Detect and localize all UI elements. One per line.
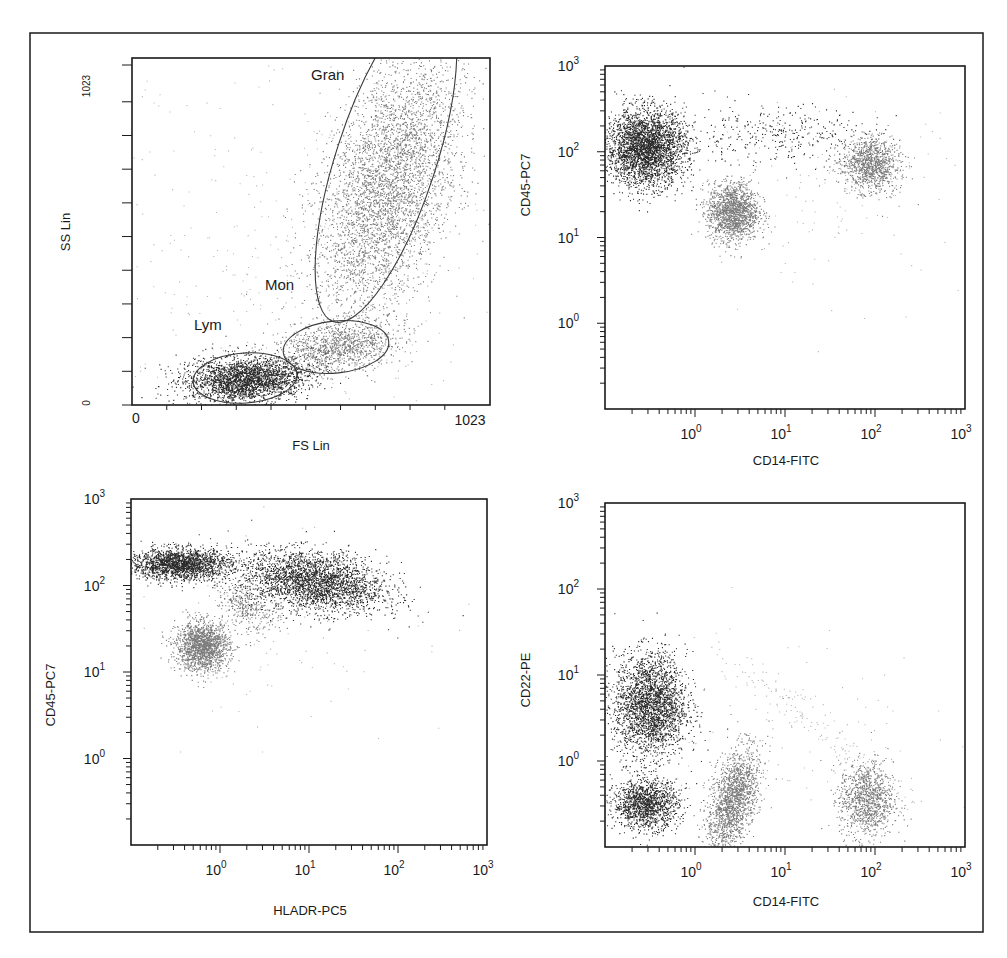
flow-cytometry-figure: 0102301023 FS Lin SS Lin LymMonGran 1001… — [0, 0, 1007, 958]
x-axis-label: HLADR-PC5 — [273, 903, 347, 918]
y-axis-label: SS Lin — [58, 213, 73, 251]
y-tick-label: 0 — [81, 400, 92, 406]
y-tick-label: 103 — [558, 492, 580, 511]
y-tick-label: 100 — [558, 750, 580, 769]
x-tick-label: 103 — [950, 423, 972, 442]
x-tick-label: 101 — [294, 859, 316, 878]
x-tick-label: 103 — [950, 861, 972, 880]
figure-frame — [30, 33, 983, 932]
x-tick-label: 100 — [205, 859, 227, 878]
x-tick-label: 103 — [472, 859, 494, 878]
y-tick-label: 1023 — [81, 74, 92, 97]
gate-label-gran: Gran — [311, 66, 344, 83]
x-tick-label: 102 — [860, 861, 882, 880]
x-tick-label: 101 — [770, 861, 792, 880]
y-axis-label: CD45-PC7 — [43, 664, 58, 727]
gate-label-mon: Mon — [265, 276, 294, 293]
y-tick-label: 102 — [558, 578, 580, 597]
y-axis-label: CD45-PC7 — [518, 154, 533, 217]
panel-fs-ss: 0102301023 FS Lin SS Lin LymMonGran — [0, 0, 652, 624]
y-tick-label: 101 — [558, 664, 580, 683]
scatter-points — [0, 0, 652, 624]
panel-hladr-cd45: 100101102103100101102103 HLADR-PC5 CD45-… — [43, 488, 494, 918]
y-tick-label: 101 — [558, 227, 580, 246]
scatter-points — [584, 67, 974, 353]
y-tick-label: 102 — [558, 141, 580, 160]
y-tick-label: 102 — [84, 575, 106, 594]
x-tick-label: 102 — [383, 859, 405, 878]
x-tick-label: 0 — [132, 410, 140, 426]
panel-cd14-cd45: 100101102103100101102103 CD14-FITC CD45-… — [518, 55, 973, 468]
y-axis-label: CD22-PE — [518, 652, 533, 707]
y-tick-label: 100 — [84, 748, 106, 767]
y-tick-label: 103 — [84, 488, 106, 507]
y-tick-label: 100 — [558, 312, 580, 331]
x-axis-label: FS Lin — [292, 438, 330, 453]
x-tick-label: 101 — [770, 423, 792, 442]
y-tick-label: 103 — [558, 55, 580, 74]
x-axis-label: CD14-FITC — [753, 453, 819, 468]
x-tick-label: 100 — [680, 423, 702, 442]
y-tick-label: 101 — [84, 661, 106, 680]
x-tick-label: 1023 — [454, 412, 485, 428]
scatter-points — [74, 498, 470, 752]
panel-cd14-cd22: 100101102103100101102103 CD14-FITC CD22-… — [518, 492, 977, 919]
x-axis-label: CD14-FITC — [753, 894, 819, 909]
gate-label-lym: Lym — [194, 316, 222, 333]
x-tick-label: 100 — [680, 861, 702, 880]
x-tick-label: 102 — [860, 423, 882, 442]
scatter-points — [529, 587, 977, 919]
axes: 100101102103100101102103 — [84, 488, 494, 878]
